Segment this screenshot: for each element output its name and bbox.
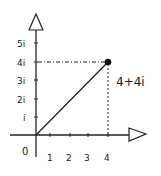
vector-line (36, 62, 108, 135)
x-tick-label: 2 (66, 153, 72, 163)
y-tick-label: 4i (17, 58, 25, 68)
point-label: 4+4i (116, 75, 145, 89)
x-tick-label: 1 (47, 153, 53, 163)
imaginary-axis-arrow-icon (29, 14, 43, 30)
y-tick-label: 3i (17, 76, 25, 86)
y-tick-label: 5i (17, 39, 25, 49)
complex-plane-diagram: 4+4i 0 1 2 3 4 i 2i 3i 4i 5i (0, 0, 161, 176)
x-tick-label: 3 (84, 153, 90, 163)
y-tick-label: i (23, 113, 26, 123)
point-marker (105, 59, 112, 66)
x-tick-label: 4 (104, 153, 110, 163)
y-tick-label: 2i (17, 95, 25, 105)
real-axis-arrow-icon (129, 128, 146, 141)
origin-label: 0 (22, 146, 28, 157)
